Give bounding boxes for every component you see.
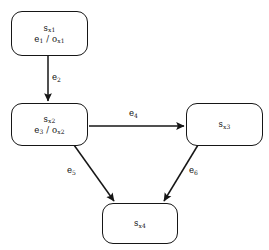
state-node-sx1-state-label: sx1 <box>44 23 56 34</box>
diagram-canvas: sx1e1 / ox1sx2e3 / ox2sx3sx4 e2e4e5e6 <box>0 0 269 250</box>
state-node-sx2[interactable]: sx2e3 / ox2 <box>11 103 88 146</box>
state-node-sx3-state-label: sx3 <box>219 119 231 130</box>
state-node-sx2-io-label: e3 / ox2 <box>34 125 64 136</box>
state-node-sx1[interactable]: sx1e1 / ox1 <box>11 11 88 56</box>
state-node-sx1-io-label: e1 / ox1 <box>34 34 64 45</box>
edge-e5-label: e5 <box>67 165 76 175</box>
edge-e2-label: e2 <box>52 72 61 82</box>
edge-e6-label: e6 <box>189 165 198 175</box>
edge-e4-label: e4 <box>129 108 138 118</box>
state-node-sx3[interactable]: sx3 <box>186 103 263 146</box>
state-node-sx4[interactable]: sx4 <box>102 203 178 244</box>
edge-e5 <box>74 145 114 201</box>
state-node-sx4-state-label: sx4 <box>134 218 146 229</box>
state-node-sx2-state-label: sx2 <box>44 114 56 125</box>
